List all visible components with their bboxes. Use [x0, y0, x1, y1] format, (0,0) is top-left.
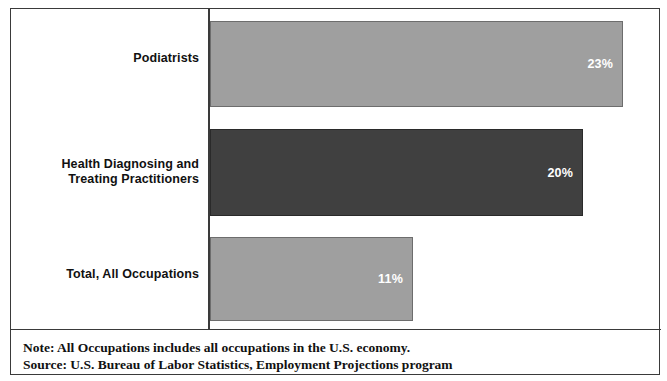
bar-row: Total, All Occupations 11% [11, 237, 661, 321]
bar-category-label: Health Diagnosing and Treating Practitio… [11, 157, 199, 187]
bar-category-label: Total, All Occupations [11, 267, 199, 282]
bar-category-label-line: Treating Practitioners [11, 172, 199, 187]
bar-row: Health Diagnosing and Treating Practitio… [11, 129, 661, 216]
bar-value-label: 20% [547, 166, 573, 180]
bar-category-label-line: Total, All Occupations [11, 267, 199, 282]
bar-row: Podiatrists 23% [11, 21, 661, 107]
bar-total-all-occupations[interactable]: 11% [210, 237, 413, 321]
bar-category-label-line: Podiatrists [11, 51, 199, 66]
bar-category-label: Podiatrists [11, 51, 199, 66]
bar-value-label: 23% [587, 57, 613, 71]
chart-figure: Podiatrists 23% Health Diagnosing and Tr… [10, 8, 660, 375]
footnote-source: Source: U.S. Bureau of Labor Statistics,… [23, 356, 661, 373]
bar-health-diagnosing-and-treating-practitioners[interactable]: 20% [210, 129, 583, 216]
footnote-note: Note: All Occupations includes all occup… [23, 339, 661, 356]
bar-category-label-line: Health Diagnosing and [11, 157, 199, 172]
bar-value-label: 11% [378, 272, 403, 286]
footnote: Note: All Occupations includes all occup… [11, 330, 661, 373]
bar-podiatrists[interactable]: 23% [210, 21, 623, 107]
plot-area: Podiatrists 23% Health Diagnosing and Tr… [11, 9, 659, 330]
